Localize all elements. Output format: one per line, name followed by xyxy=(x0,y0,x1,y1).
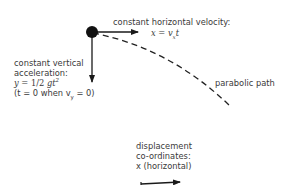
cond-text-end: = 0) xyxy=(74,88,95,98)
displacement-label-line3: x (horizontal) xyxy=(136,161,191,171)
vertical-title-line1: constant vertical xyxy=(14,58,84,68)
vertical-equation: y = 1/2 gt2 xyxy=(14,78,59,88)
displacement-label-line2: co-ordinates: xyxy=(136,151,191,161)
displacement-x-arrow xyxy=(141,182,180,184)
eq-half: = 1/2 xyxy=(19,78,47,88)
eq-sup-2: 2 xyxy=(56,77,60,83)
vertical-title-line2: acceleration: xyxy=(14,68,68,78)
cond-text: (t = 0 when v xyxy=(14,88,71,98)
eq-t: t xyxy=(176,28,179,38)
horizontal-velocity-equation: x = vxt xyxy=(151,28,179,38)
projectile-ball xyxy=(86,26,98,38)
eq-equals: = xyxy=(156,28,168,38)
horizontal-velocity-label: constant horizontal velocity: xyxy=(113,17,230,27)
parabolic-path xyxy=(93,33,230,106)
displacement-label-line1: displacement xyxy=(136,141,192,151)
parabolic-path-label: parabolic path xyxy=(215,78,275,88)
vertical-condition: (t = 0 when vy = 0) xyxy=(14,88,95,98)
eq-gt: gt xyxy=(47,78,56,88)
